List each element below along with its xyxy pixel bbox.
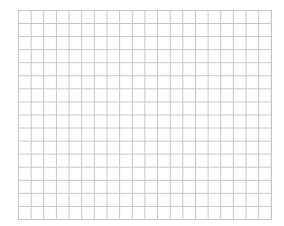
blank-grid (18, 10, 272, 220)
